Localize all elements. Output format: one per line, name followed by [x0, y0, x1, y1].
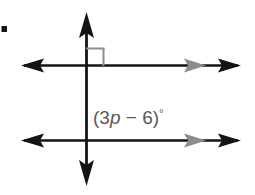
degree-symbol-icon: ° — [159, 107, 164, 121]
angle-label-constant: 6) — [142, 107, 159, 128]
problem-bullet — [2, 26, 8, 32]
angle-label-variable: p — [109, 107, 121, 128]
angle-label-prefix: (3 — [93, 107, 110, 128]
figure-container: (3p − 6)° — [0, 0, 255, 195]
angle-label-operator: − — [120, 107, 142, 128]
angle-label: (3p − 6)° — [93, 107, 164, 128]
geometry-figure: (3p − 6)° — [0, 0, 255, 195]
figure-background — [0, 0, 255, 195]
